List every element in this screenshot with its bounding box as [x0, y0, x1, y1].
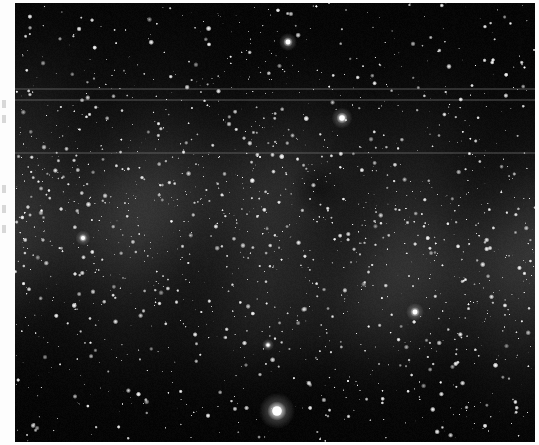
margin-mark	[2, 205, 6, 213]
margin-mark	[2, 100, 6, 108]
margin-mark	[2, 185, 6, 193]
left-margin-cropped-caption	[0, 0, 15, 445]
margin-mark	[2, 225, 6, 233]
star-field-photo: Milky Way star field	[15, 3, 535, 442]
milky-way-image	[15, 3, 535, 442]
page: Milky Way star field	[0, 0, 539, 445]
margin-mark	[2, 115, 6, 123]
